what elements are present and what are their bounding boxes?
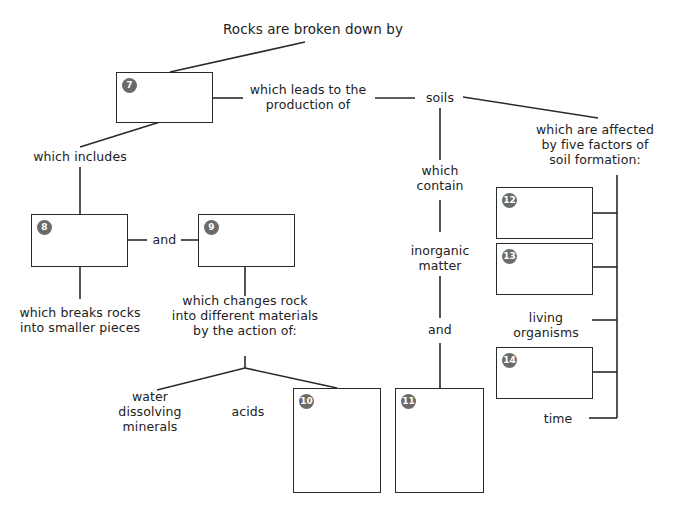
number-badge: 8 — [37, 220, 52, 235]
which-includes-label: which includes — [22, 149, 138, 164]
inorganic-matter-label: inorganicmatter — [405, 243, 475, 273]
answer-box-13[interactable]: 13 — [496, 243, 593, 295]
number-badge: 9 — [204, 220, 219, 235]
answer-box-11[interactable]: 11 — [395, 388, 484, 493]
title-label: Rocks are broken down by — [213, 22, 413, 37]
number-badge: 12 — [502, 193, 517, 208]
number-badge: 10 — [299, 394, 314, 409]
answer-box-14[interactable]: 14 — [496, 347, 593, 399]
affected-by-label: which are affectedby five factors ofsoil… — [530, 122, 660, 167]
number-badge: 11 — [401, 394, 416, 409]
answer-box-9[interactable]: 9 — [198, 214, 295, 267]
soils-label: soils — [418, 90, 462, 105]
and-label: and — [148, 232, 181, 247]
breaks-rocks-label: which breaks rocksinto smaller pieces — [10, 305, 150, 335]
answer-box-10[interactable]: 10 — [293, 388, 381, 493]
answer-box-12[interactable]: 12 — [496, 187, 593, 239]
water-dissolving-minerals-label: waterdissolvingminerals — [115, 389, 185, 434]
number-badge: 13 — [502, 249, 517, 264]
living-organisms-label: livingorganisms — [510, 310, 582, 340]
and-label-2: and — [422, 322, 458, 337]
number-badge: 14 — [502, 353, 517, 368]
which-contain-label: whichcontain — [410, 163, 470, 193]
number-badge: 7 — [122, 78, 137, 93]
time-label: time — [538, 411, 578, 426]
changes-rock-label: which changes rockinto different materia… — [165, 293, 325, 338]
answer-box-7[interactable]: 7 — [116, 72, 213, 123]
answer-box-8[interactable]: 8 — [31, 214, 128, 267]
leads-to-label: which leads to theproduction of — [246, 82, 370, 112]
acids-label: acids — [225, 404, 271, 419]
